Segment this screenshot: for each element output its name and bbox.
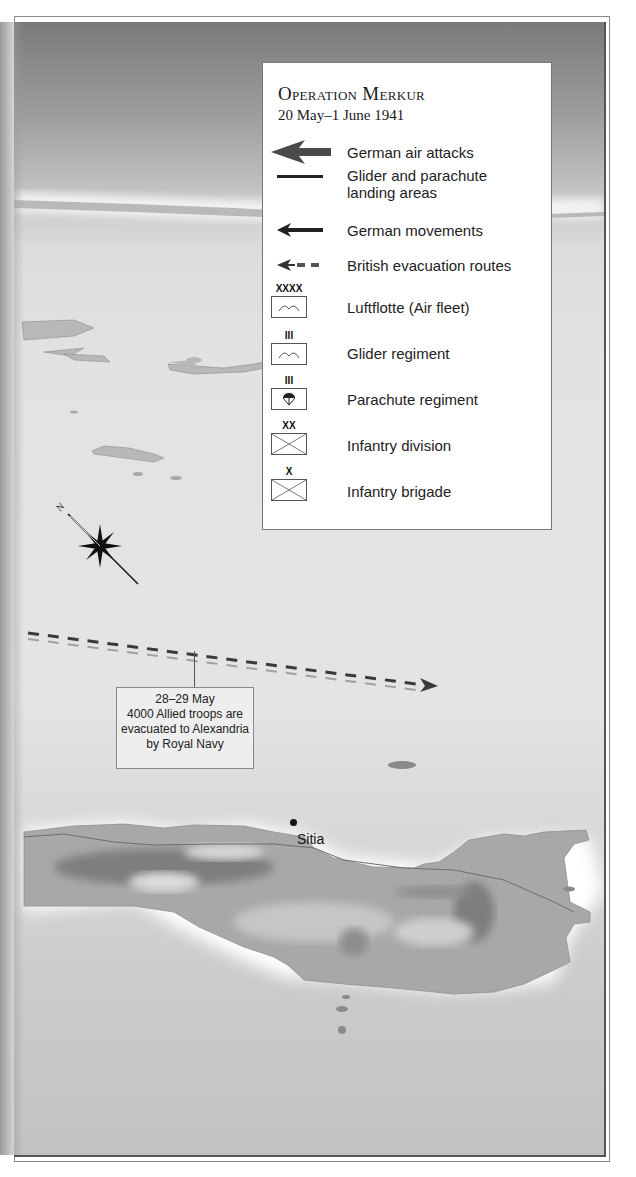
infantry-unit-icon	[271, 479, 307, 501]
map-legend: Operation Merkur 20 May–1 June 1941 Germ…	[262, 62, 552, 530]
legend-label: Parachute regiment	[347, 391, 478, 408]
legend-label: British evacuation routes	[347, 257, 511, 274]
evacuation-annotation: 28–29 May 4000 Allied troops are evacuat…	[116, 687, 254, 769]
glider-unit-icon	[271, 343, 307, 365]
legend-label: Luftflotte (Air fleet)	[347, 299, 470, 316]
legend-label: Infantry brigade	[347, 483, 451, 500]
line-icon	[277, 174, 325, 180]
parachute-unit-icon	[271, 388, 307, 410]
town-marker-icon	[290, 819, 297, 826]
dashed-arrow-left-icon	[277, 258, 325, 272]
town-label-sitia: Sitia	[297, 831, 324, 847]
echelon-marker: XX	[271, 420, 307, 431]
annotation-leader-line	[194, 651, 195, 687]
legend-label: Infantry division	[347, 437, 451, 454]
echelon-marker: X	[271, 466, 307, 477]
annotation-text-line: 4000 Allied troops are	[117, 707, 253, 722]
legend-label: Glider and parachute	[347, 167, 487, 184]
legend-title: Operation Merkur	[278, 83, 425, 105]
svg-text:N: N	[54, 501, 67, 514]
thin-arrow-left-icon	[277, 223, 325, 237]
annotation-text-line: by Royal Navy	[117, 737, 253, 752]
annotation-date: 28–29 May	[117, 692, 253, 707]
echelon-marker: XXXX	[271, 283, 307, 294]
legend-subtitle: 20 May–1 June 1941	[278, 107, 404, 124]
legend-label: Glider regiment	[347, 345, 450, 362]
legend-label: German movements	[347, 222, 483, 239]
page-gutter-shadow	[0, 22, 24, 1155]
compass-rose-icon: N	[54, 501, 138, 584]
thick-arrow-left-icon	[271, 138, 333, 166]
legend-label: German air attacks	[347, 144, 474, 161]
echelon-marker: III	[271, 330, 307, 341]
legend-label: landing areas	[347, 184, 437, 201]
annotation-text-line: evacuated to Alexandria	[117, 722, 253, 737]
infantry-unit-icon	[271, 433, 307, 455]
echelon-marker: III	[271, 375, 307, 386]
air-fleet-unit-icon	[271, 296, 307, 318]
